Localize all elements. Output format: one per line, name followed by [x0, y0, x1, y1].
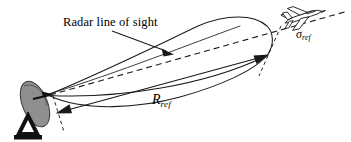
radar-dish-reflector — [14, 77, 55, 131]
label-radar-line-of-sight: Radar line of sight — [63, 16, 158, 29]
range-tick-right — [259, 26, 281, 76]
los-leader-line — [112, 31, 166, 51]
los-leader-arrowhead — [162, 49, 175, 57]
radar-base-plate — [14, 135, 42, 140]
range-arrowhead-left — [56, 104, 73, 113]
range-symbol: R — [152, 92, 161, 107]
lobe-lower-inner-edge — [49, 57, 264, 96]
diagram-canvas — [0, 0, 351, 142]
range-arrowhead-right — [254, 55, 270, 65]
range-tick-left — [53, 96, 64, 132]
label-reference-rcs: σref — [296, 28, 311, 40]
label-reference-range: Rref — [152, 93, 171, 107]
radar-antenna — [14, 77, 56, 139]
aircraft-stabilizer-near — [283, 21, 294, 29]
lobe-upper-inner-edge — [49, 26, 240, 94]
radar-geometry-figure: Radar line of sight Rref σref — [0, 0, 351, 142]
rcs-subscript: ref — [302, 33, 311, 42]
aircraft-nose — [321, 10, 325, 12]
range-end-ticks — [53, 26, 281, 132]
range-subscript: ref — [161, 99, 172, 109]
